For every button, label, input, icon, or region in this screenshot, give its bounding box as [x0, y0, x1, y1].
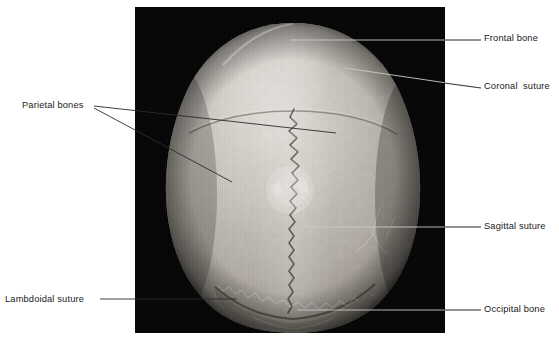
leader-coronal-suture: [444, 83, 481, 88]
skull-illustration: [157, 21, 429, 333]
label-frontal-bone: Frontal bone: [484, 33, 538, 44]
label-coronal-suture: Coronal suture: [484, 81, 550, 92]
label-occipital-bone: Occipital bone: [484, 304, 545, 315]
cranium-superior-view: [157, 21, 429, 333]
label-sagittal-suture: Sagittal suture: [484, 221, 546, 232]
anatomy-figure: Frontal bone Coronal suture Parietal bon…: [0, 0, 559, 343]
label-parietal-bones: Parietal bones: [22, 100, 84, 111]
skull-photograph: [135, 7, 445, 333]
label-lambdoidal-suture: Lambdoidal suture: [5, 294, 84, 305]
